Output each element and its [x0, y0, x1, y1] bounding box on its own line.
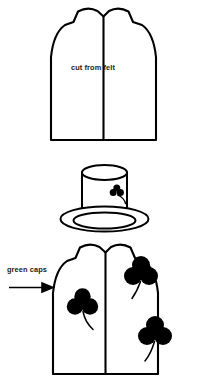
cut-from-felt-caption: cut from felt — [71, 63, 115, 72]
craft-diagram: cut from felt — [0, 0, 207, 382]
plain-vest-pattern: cut from felt — [51, 9, 156, 140]
hat-crown-top — [82, 165, 127, 180]
decorated-vest: green caps — [7, 245, 172, 374]
hat-figure — [61, 165, 149, 232]
hat-brim-inner — [74, 213, 136, 229]
diagram-canvas: cut from felt — [0, 0, 207, 382]
green-caps-label: green caps — [7, 265, 47, 274]
right-arrow-icon — [9, 283, 53, 292]
